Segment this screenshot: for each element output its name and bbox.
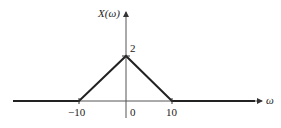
tick-label-0: 0 <box>130 106 136 118</box>
y-axis-label: X(ω) <box>97 7 120 20</box>
x-axis-label: ω <box>266 94 274 106</box>
peak-label: 2 <box>130 42 136 54</box>
tick-label-neg10: −10 <box>68 106 86 118</box>
signal-line <box>13 56 255 101</box>
tick-label-10: 10 <box>166 106 178 118</box>
plot-canvas: X(ω) ω 2 −10 0 10 <box>0 0 281 128</box>
